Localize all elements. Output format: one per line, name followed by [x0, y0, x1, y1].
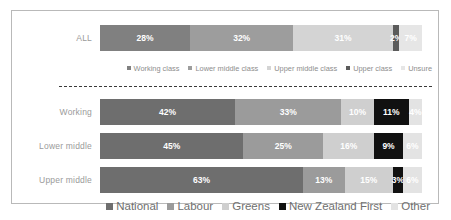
upper-middle-segment-national: 63%	[100, 167, 303, 193]
legend-party-item[interactable]: Labour	[167, 200, 213, 212]
chart-row-working: Working 42%33%10%11%4%	[12, 99, 438, 125]
chart-frame: ALL 28%32%31%2%7% Working classLower mid…	[11, 10, 439, 204]
all-segment-unsure: 7%	[399, 25, 422, 51]
segment-value-label: 45%	[163, 141, 180, 151]
legend-swatch-icon	[401, 66, 405, 70]
legend-swatch-icon	[222, 203, 229, 210]
legend-label: Upper class	[353, 64, 392, 73]
section-divider	[59, 86, 432, 87]
legend-label: Greens	[232, 200, 270, 212]
all-segment-upper-middle-class: 31%	[293, 25, 393, 51]
upper-middle-segment-new-zealand-first: 3%	[393, 167, 403, 193]
all-segment-lower-middle-class: 32%	[190, 25, 293, 51]
lower-middle-segment-national: 45%	[100, 133, 243, 159]
chart-row-lower-middle: Lower middle 45%25%16%9%6%	[12, 133, 438, 159]
segment-value-label: 42%	[159, 107, 176, 117]
segment-value-label: 11%	[383, 107, 400, 117]
legend-party-item[interactable]: Other	[391, 200, 430, 212]
lower-middle-segment-greens: 16%	[323, 133, 374, 159]
working-segment-other: 4%	[409, 99, 422, 125]
segment-value-label: 31%	[335, 33, 352, 43]
legend-class-item[interactable]: Working class	[127, 64, 180, 73]
upper-middle-segment-labour: 13%	[303, 167, 345, 193]
stacked-bar-working: 42%33%10%11%4%	[100, 99, 422, 125]
lower-middle-segment-other: 6%	[403, 133, 422, 159]
upper-middle-segment-other: 6%	[403, 167, 422, 193]
legend-class-item[interactable]: Upper middle class	[267, 64, 337, 73]
lower-middle-segment-new-zealand-first: 9%	[374, 133, 403, 159]
segment-value-label: 32%	[233, 33, 250, 43]
row-label-all: ALL	[12, 33, 100, 43]
stacked-bar-lower-middle: 45%25%16%9%6%	[100, 133, 422, 159]
legend-party-item[interactable]: Greens	[222, 200, 270, 212]
legend-swatch-icon	[267, 66, 271, 70]
legend-party-item[interactable]: New Zealand First	[279, 200, 382, 212]
segment-value-label: 10%	[349, 107, 366, 117]
legend-class-item[interactable]: Lower middle class	[188, 64, 258, 73]
legend-class-item[interactable]: Unsure	[401, 64, 432, 73]
segment-value-label: 63%	[193, 175, 210, 185]
upper-middle-segment-greens: 15%	[345, 167, 393, 193]
legend-class-item[interactable]: Upper class	[346, 64, 392, 73]
segment-value-label: 9%	[382, 141, 394, 151]
legend-label: Working class	[134, 64, 180, 73]
working-segment-greens: 10%	[341, 99, 373, 125]
segment-value-label: 13%	[315, 175, 332, 185]
legend-label: National	[116, 200, 158, 212]
segment-value-label: 28%	[137, 33, 154, 43]
legend-label: Upper middle class	[274, 64, 337, 73]
legend-class: Working classLower middle classUpper mid…	[100, 61, 432, 75]
legend-swatch-icon	[127, 66, 131, 70]
segment-value-label: 6%	[406, 141, 418, 151]
legend-swatch-icon	[167, 203, 174, 210]
legend-party: NationalLabourGreensNew Zealand FirstOth…	[100, 197, 430, 215]
all-segment-working-class: 28%	[100, 25, 190, 51]
row-label-upper-middle: Upper middle	[12, 175, 100, 185]
legend-swatch-icon	[106, 203, 113, 210]
stacked-bar-upper-middle: 63%13%15%3%6%	[100, 167, 422, 193]
segment-value-label: 33%	[280, 107, 297, 117]
segment-value-label: 6%	[406, 175, 418, 185]
legend-swatch-icon	[346, 66, 350, 70]
legend-party-item[interactable]: National	[106, 200, 158, 212]
chart-row-all: ALL 28%32%31%2%7%	[12, 25, 438, 51]
segment-value-label: 4%	[409, 107, 421, 117]
lower-middle-segment-labour: 25%	[243, 133, 323, 159]
stacked-bar-all: 28%32%31%2%7%	[100, 25, 422, 51]
legend-swatch-icon	[188, 66, 192, 70]
segment-value-label: 16%	[340, 141, 357, 151]
legend-label: Other	[401, 200, 430, 212]
legend-swatch-icon	[279, 203, 286, 210]
row-label-lower-middle: Lower middle	[12, 141, 100, 151]
row-label-working: Working	[12, 107, 100, 117]
legend-label: Lower middle class	[195, 64, 258, 73]
legend-label: Labour	[177, 200, 213, 212]
segment-value-label: 15%	[360, 175, 377, 185]
legend-label: New Zealand First	[289, 200, 382, 212]
working-segment-new-zealand-first: 11%	[374, 99, 409, 125]
legend-swatch-icon	[391, 203, 398, 210]
segment-value-label: 7%	[405, 33, 417, 43]
working-segment-labour: 33%	[235, 99, 341, 125]
segment-value-label: 25%	[275, 141, 292, 151]
legend-label: Unsure	[408, 64, 432, 73]
working-segment-national: 42%	[100, 99, 235, 125]
chart-row-upper-middle: Upper middle 63%13%15%3%6%	[12, 167, 438, 193]
